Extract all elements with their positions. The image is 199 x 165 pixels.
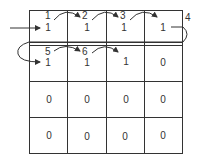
cell-r2-c1: 1 [38, 57, 58, 69]
scan-arrows [10, 12, 187, 62]
step-label-4: 4 [185, 12, 191, 24]
raster-scan-diagram: 1 2 3 4 5 6 1 1 1 1 1 1 1 0 0 0 0 0 0 0 … [0, 0, 199, 165]
cell-r3-c3: 0 [116, 94, 136, 106]
cell-r1-c1: 1 [38, 22, 58, 34]
cell-r3-c4: 0 [153, 94, 173, 106]
cell-r4-c3: 0 [115, 131, 135, 143]
step-label-3: 3 [120, 10, 126, 22]
cell-r2-c4: 0 [153, 57, 173, 69]
cell-r4-c1: 0 [39, 130, 59, 142]
cell-r3-c1: 0 [39, 94, 59, 106]
step-label-2: 2 [82, 10, 88, 22]
step-label-1: 1 [45, 10, 51, 22]
cell-r2-c2: 1 [77, 57, 97, 69]
cell-r1-c3: 1 [114, 22, 134, 34]
cell-r1-c2: 1 [77, 22, 97, 34]
cell-r4-c2: 0 [77, 131, 97, 143]
cell-r4-c4: 0 [153, 130, 173, 142]
cell-r2-c3: 1 [116, 56, 136, 68]
cell-r1-c4: 1 [153, 22, 173, 34]
cell-r3-c2: 0 [77, 94, 97, 106]
